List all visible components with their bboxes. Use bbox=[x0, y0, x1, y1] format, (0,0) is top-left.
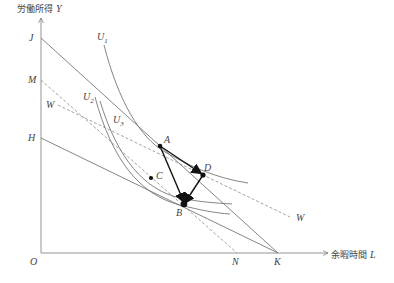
label-U3: U3 bbox=[113, 114, 124, 128]
point-D bbox=[200, 172, 205, 177]
label-C: C bbox=[156, 170, 163, 181]
movement-arrows bbox=[160, 146, 203, 201]
dashed-line-W bbox=[58, 105, 290, 217]
axes bbox=[41, 18, 328, 253]
label-N: N bbox=[232, 256, 239, 267]
x-axis-label: 余暇時間 L bbox=[331, 248, 375, 261]
x-axis-label-jp: 余暇時間 bbox=[331, 250, 367, 260]
y-axis-label: 労働所得 Y bbox=[17, 2, 61, 15]
label-W-left: W bbox=[46, 99, 54, 110]
label-U1: U1 bbox=[97, 31, 108, 45]
y-axis-variable: Y bbox=[56, 3, 62, 14]
x-axis-variable: L bbox=[370, 249, 376, 260]
label-U2: U2 bbox=[83, 91, 94, 105]
label-W-right: W bbox=[296, 212, 304, 223]
budget-line-HK bbox=[41, 138, 278, 253]
point-C bbox=[149, 176, 153, 180]
point-A bbox=[158, 144, 163, 149]
label-K: K bbox=[274, 256, 281, 267]
labor-leisure-diagram: 労働所得 Y 余暇時間 L O J M H N K W W U1 U2 U3 A… bbox=[0, 0, 394, 283]
arrow-D-to-B bbox=[186, 175, 203, 201]
label-M: M bbox=[28, 74, 36, 85]
diagram-canvas bbox=[0, 0, 394, 283]
label-J: J bbox=[29, 32, 33, 43]
label-D: D bbox=[204, 162, 211, 173]
label-H: H bbox=[28, 132, 35, 143]
label-A: A bbox=[164, 134, 170, 145]
origin-label: O bbox=[30, 256, 37, 267]
label-B: B bbox=[176, 207, 182, 218]
y-axis-label-jp: 労働所得 bbox=[17, 4, 53, 14]
